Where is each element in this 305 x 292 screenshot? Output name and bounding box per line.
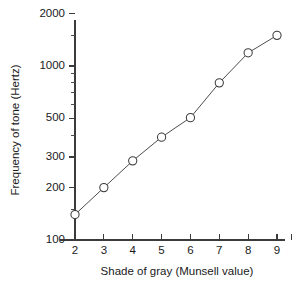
data-series-group (71, 31, 281, 218)
x-tick-label-9: 9 (274, 244, 280, 256)
data-point-marker (215, 79, 223, 87)
data-point-marker (157, 133, 165, 141)
y-axis-group: 20001000500300200100 (39, 7, 75, 245)
chart-figure: 20001000500300200100 23456789 Shade of g… (0, 0, 305, 292)
x-tick-label-8: 8 (245, 244, 251, 256)
y-tick-label-1000: 1000 (39, 59, 65, 71)
y-axis-major-ticks (69, 14, 75, 240)
data-point-marker (244, 49, 252, 57)
data-point-marker (186, 114, 194, 122)
x-axis-title: Shade of gray (Munsell value) (101, 265, 254, 277)
data-point-markers (71, 31, 281, 218)
x-axis-group: 23456789 (60, 234, 291, 256)
x-tick-label-2: 2 (72, 244, 78, 256)
x-axis-major-ticks (75, 234, 291, 240)
y-axis-tick-labels: 20001000500300200100 (39, 7, 65, 245)
y-tick-label-2000: 2000 (39, 7, 65, 19)
y-axis-title: Frequency of tone (Hertz) (9, 64, 21, 195)
y-tick-label-300: 300 (46, 150, 65, 162)
x-tick-label-3: 3 (101, 244, 107, 256)
y-axis-minor-ticks (71, 35, 75, 209)
x-tick-label-5: 5 (158, 244, 164, 256)
x-tick-label-4: 4 (130, 244, 137, 256)
x-axis-tick-labels: 23456789 (72, 244, 280, 256)
data-point-marker (129, 157, 137, 165)
data-point-marker (71, 210, 79, 218)
y-tick-label-200: 200 (46, 181, 65, 193)
x-tick-label-7: 7 (216, 244, 222, 256)
data-point-marker (100, 184, 108, 192)
data-point-marker (273, 31, 281, 39)
y-tick-label-500: 500 (46, 111, 65, 123)
line-chart-plot: 20001000500300200100 23456789 Shade of g… (0, 0, 305, 292)
y-tick-label-100: 100 (46, 233, 65, 245)
x-tick-label-6: 6 (187, 244, 193, 256)
